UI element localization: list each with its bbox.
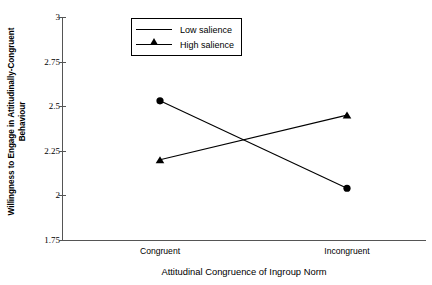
- data-point-triangle: [156, 156, 165, 163]
- chart-legend: Low salience High salience: [131, 18, 242, 56]
- data-point-circle: [343, 185, 350, 192]
- legend-item-low-salience: Low salience: [136, 22, 234, 37]
- plot-area: [62, 17, 426, 240]
- y-tick-label: 2.5: [34, 101, 60, 111]
- y-axis-tick-labels: 3 2.75 2.5 2.25 2 1.75: [32, 0, 60, 285]
- x-tick-label-incongruent: Incongruent: [324, 246, 369, 256]
- series-line-1: [160, 115, 347, 160]
- y-axis-title: Willingness to Engage in Attitudinally-C…: [0, 0, 36, 243]
- triangle-marker-icon: [150, 21, 158, 39]
- series-plot: [62, 17, 426, 240]
- legend-line-icon: [136, 44, 172, 45]
- x-tick-label-congruent: Congruent: [140, 246, 180, 256]
- data-point-triangle: [343, 112, 352, 119]
- y-axis-tick: [59, 240, 66, 241]
- y-axis-title-line-1: Willingness to Engage in Attitudinally-C…: [8, 28, 17, 216]
- data-point-circle: [156, 97, 163, 104]
- legend-key-low-salience: [136, 23, 172, 37]
- legend-item-high-salience: High salience: [136, 37, 234, 52]
- chart-figure: Willingness to Engage in Attitudinally-C…: [0, 0, 432, 285]
- x-axis-spine: [61, 240, 426, 241]
- y-tick-label: 3: [34, 12, 60, 22]
- y-axis-title-line-2: Behaviour: [18, 28, 29, 216]
- legend-label: High salience: [172, 40, 234, 50]
- series-line-2: [160, 101, 347, 188]
- legend-label: Low salience: [172, 25, 232, 35]
- y-tick-label: 1.75: [34, 235, 60, 245]
- y-tick-label: 2.75: [34, 57, 60, 67]
- x-axis-title: Attitudinal Congruence of Ingroup Norm: [62, 266, 426, 277]
- y-tick-label: 2: [34, 190, 60, 200]
- legend-key-high-salience: [136, 38, 172, 52]
- y-tick-label: 2.25: [34, 146, 60, 156]
